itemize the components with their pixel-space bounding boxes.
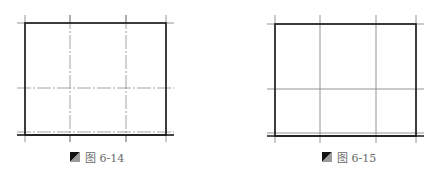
caption-figure-6-15: 图 6-15 [322, 149, 376, 165]
axis-grid-dashdot [17, 15, 174, 142]
figure-canvas [0, 0, 433, 174]
caption-label: 图 6-15 [337, 149, 376, 165]
axis-extensions [17, 15, 174, 142]
figure-6-14 [17, 15, 174, 142]
figure-6-15 [267, 15, 424, 143]
caption-figure-6-14: 图 6-14 [70, 149, 124, 165]
axis-grid-solid [267, 15, 424, 143]
half-triangle-figure-icon [322, 152, 332, 162]
wall-frame [25, 23, 166, 135]
caption-label: 图 6-14 [85, 149, 124, 165]
wall-frame [275, 24, 416, 136]
half-triangle-figure-icon [70, 152, 80, 162]
